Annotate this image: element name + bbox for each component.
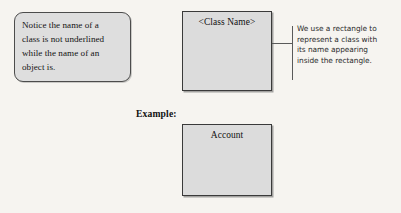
class-name-note-text: Notice the name of a class is not underl… bbox=[22, 18, 126, 74]
annotation-line: We use a rectangle to bbox=[297, 24, 399, 35]
annotation-line: inside the rectangle. bbox=[297, 56, 399, 67]
uml-class-name-label: <Class Name> bbox=[183, 17, 271, 27]
class-name-note-callout: Notice the name of a class is not underl… bbox=[14, 12, 131, 82]
annotation-line: its name appearing bbox=[297, 45, 399, 56]
rectangle-explanation-text: We use a rectangle to represent a class … bbox=[297, 24, 399, 66]
uml-class-name-label-account: Account bbox=[183, 130, 271, 140]
annotation-vertical-rule bbox=[292, 26, 293, 80]
note-line: object is. bbox=[22, 60, 126, 74]
diagram-canvas: Notice the name of a class is not underl… bbox=[0, 0, 401, 213]
note-line: while the name of an bbox=[22, 46, 126, 60]
annotation-line: represent a class with bbox=[297, 35, 399, 46]
annotation-leader-line bbox=[272, 43, 293, 44]
uml-class-box-account: Account bbox=[182, 124, 272, 196]
note-line: class is not underlined bbox=[22, 32, 126, 46]
example-label: Example: bbox=[136, 108, 177, 119]
uml-class-box-generic: <Class Name> bbox=[182, 11, 272, 91]
note-line: Notice the name of a bbox=[22, 18, 126, 32]
